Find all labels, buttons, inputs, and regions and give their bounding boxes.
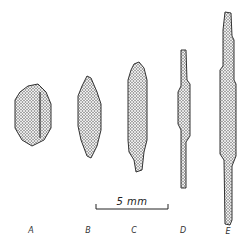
specimen-d: [178, 50, 190, 188]
specimen-c: [128, 62, 147, 172]
label-c: C: [131, 226, 137, 235]
label-e: E: [225, 227, 230, 236]
specimen-e: [220, 12, 236, 225]
label-a: A: [28, 226, 33, 235]
specimen-b: [78, 76, 101, 158]
label-d: D: [180, 226, 186, 235]
scale-bar-label: 5 mm: [116, 196, 147, 207]
crystal-figure: [0, 0, 246, 246]
label-b: B: [85, 226, 91, 235]
specimen-a: [15, 84, 51, 146]
